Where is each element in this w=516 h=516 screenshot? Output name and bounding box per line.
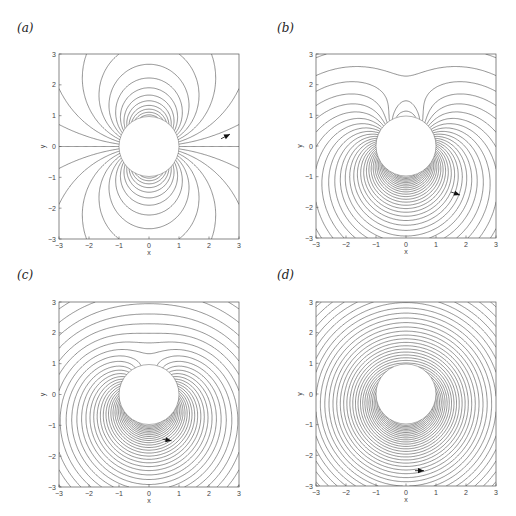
cylinder (376, 116, 436, 176)
x-tick-label: −2 (85, 490, 93, 497)
y-tick-label: −1 (48, 422, 56, 429)
y-tick-label: 3 (309, 299, 313, 306)
x-tick-label: 2 (464, 489, 468, 496)
y-tick-label: 3 (52, 299, 56, 306)
x-tick-label: −2 (342, 489, 350, 496)
y-tick-label: 0 (52, 143, 56, 150)
y-tick-label: −3 (48, 236, 56, 243)
y-tick-label: 2 (309, 81, 313, 88)
cylinder (119, 117, 179, 177)
x-tick-label: −3 (55, 242, 63, 249)
y-tick-label: 1 (52, 112, 56, 119)
y-tick-label: −3 (305, 483, 313, 490)
y-tick-label: 2 (52, 81, 56, 88)
x-tick-label: 0 (404, 241, 408, 248)
flow-arrow-head (165, 437, 171, 442)
x-tick-label: 3 (237, 490, 241, 497)
y-tick-label: 2 (52, 329, 56, 336)
y-axis-label: y (39, 144, 47, 148)
y-tick-label: 2 (309, 329, 313, 336)
x-tick-label: 3 (494, 241, 498, 248)
y-tick-label: −1 (305, 173, 313, 180)
cylinder (376, 364, 436, 424)
y-axis-label: y (296, 144, 304, 148)
x-tick-label: 3 (494, 489, 498, 496)
y-tick-label: −2 (48, 453, 56, 460)
panel-d: −3−2−10123−3−2−10123xy (296, 299, 498, 504)
x-tick-label: −1 (372, 241, 380, 248)
streamline (316, 54, 496, 118)
x-tick-label: −1 (372, 489, 380, 496)
flow-arrow-head (453, 191, 460, 196)
x-tick-label: 3 (237, 242, 241, 249)
streamline (316, 302, 496, 317)
x-tick-label: −1 (115, 242, 123, 249)
x-tick-label: −3 (312, 241, 320, 248)
x-tick-label: −2 (85, 242, 93, 249)
x-tick-label: −3 (55, 490, 63, 497)
x-tick-label: 1 (177, 242, 181, 249)
x-tick-label: 1 (177, 490, 181, 497)
y-tick-label: −1 (305, 421, 313, 428)
y-axis-label: y (39, 392, 47, 396)
cylinder (119, 365, 179, 425)
flow-arrow-head (418, 468, 424, 473)
x-tick-label: −2 (342, 241, 350, 248)
x-axis-label: x (404, 248, 408, 255)
y-tick-label: −1 (48, 174, 56, 181)
y-tick-label: 1 (52, 360, 56, 367)
y-tick-label: 0 (309, 143, 313, 150)
panel-b: −3−2−10123−3−2−10123xy (296, 51, 498, 256)
streamline (59, 302, 239, 309)
y-axis-label: y (296, 392, 304, 396)
y-tick-label: 0 (309, 391, 313, 398)
x-axis-label: x (404, 496, 408, 503)
y-tick-label: 3 (309, 51, 313, 58)
y-tick-label: 0 (52, 391, 56, 398)
streamline (316, 67, 496, 120)
y-tick-label: −2 (48, 205, 56, 212)
x-tick-label: 2 (464, 241, 468, 248)
x-tick-label: 2 (207, 490, 211, 497)
x-axis-label: x (147, 249, 151, 256)
streamline (316, 82, 496, 121)
panel-a: −3−2−10123−3−2−10123xy (39, 51, 241, 257)
x-tick-label: 2 (207, 242, 211, 249)
panel-c: −3−2−10123−3−2−10123xy (39, 299, 241, 505)
x-tick-label: 0 (404, 489, 408, 496)
streamline (59, 304, 239, 336)
x-tick-label: 0 (147, 490, 151, 497)
x-tick-label: 1 (434, 489, 438, 496)
x-tick-label: −3 (312, 489, 320, 496)
figure-canvas: −3−2−10123−3−2−10123xy−3−2−10123−3−2−101… (0, 0, 516, 516)
x-axis-label: x (147, 497, 151, 504)
y-tick-label: 1 (309, 360, 313, 367)
y-tick-label: 1 (309, 112, 313, 119)
y-tick-label: −3 (305, 235, 313, 242)
y-tick-label: 3 (52, 51, 56, 58)
x-tick-label: −1 (115, 490, 123, 497)
y-tick-label: −2 (305, 204, 313, 211)
y-tick-label: −2 (305, 452, 313, 459)
x-tick-label: 0 (147, 242, 151, 249)
x-tick-label: 1 (434, 241, 438, 248)
streamline (59, 302, 239, 323)
y-tick-label: −3 (48, 484, 56, 491)
